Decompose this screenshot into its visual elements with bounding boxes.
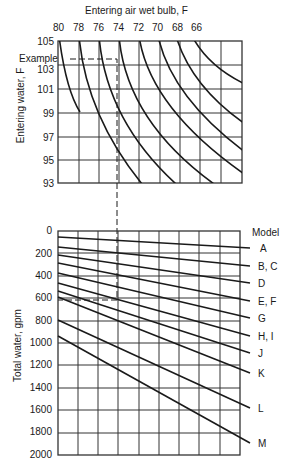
model-lines <box>58 237 250 443</box>
wet-bulb-curves <box>59 36 254 184</box>
example-path <box>58 59 117 300</box>
upper-grid <box>58 41 242 183</box>
chart-graphics <box>0 0 288 464</box>
